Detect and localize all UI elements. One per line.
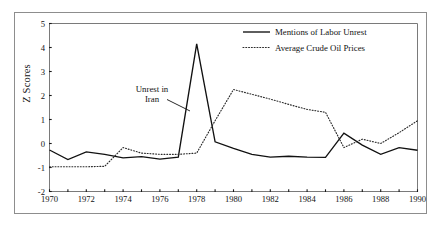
x-tick-label: 1986 — [335, 194, 353, 204]
y-tick-label: 1 — [41, 115, 45, 125]
series-line-oil-prices — [50, 90, 418, 167]
legend-label: Mentions of Labor Unrest — [275, 27, 367, 37]
legend-label: Average Crude Oil Prices — [275, 43, 366, 53]
series-group — [50, 44, 418, 167]
legend-group: Mentions of Labor UnrestAverage Crude Oi… — [243, 27, 367, 53]
annotation-line-2: Iran — [145, 94, 160, 104]
y-tick-label: 4 — [41, 43, 46, 53]
y-tick-label: 3 — [41, 67, 45, 77]
x-tick-label: 1984 — [299, 194, 317, 204]
x-tick-label: 1974 — [115, 194, 133, 204]
annotation-group: Unrest inIran — [136, 84, 190, 111]
x-tick-label: 1972 — [78, 194, 95, 204]
y-tick-label: 5 — [41, 19, 45, 29]
y-tick-label: 0 — [41, 139, 45, 149]
x-tick-label: 1978 — [188, 194, 205, 204]
series-line-labor-unrest — [50, 44, 418, 160]
x-tick-label: 1990 — [409, 194, 426, 204]
chart-plot-area: -2-1012345 19701972197419761978198019821… — [0, 0, 441, 226]
x-tick-label: 1980 — [225, 194, 242, 204]
figure-canvas: Z Scores -2-1012345 19701972197419761978… — [0, 0, 441, 226]
y-tick-label: -1 — [38, 163, 45, 173]
x-tick-label: 1976 — [151, 194, 169, 204]
x-tick-label: 1988 — [372, 194, 389, 204]
x-tick-label: 1970 — [41, 194, 58, 204]
y-tick-label: 2 — [41, 91, 45, 101]
x-tick-label: 1982 — [262, 194, 279, 204]
annotation-line-1: Unrest in — [136, 84, 169, 94]
